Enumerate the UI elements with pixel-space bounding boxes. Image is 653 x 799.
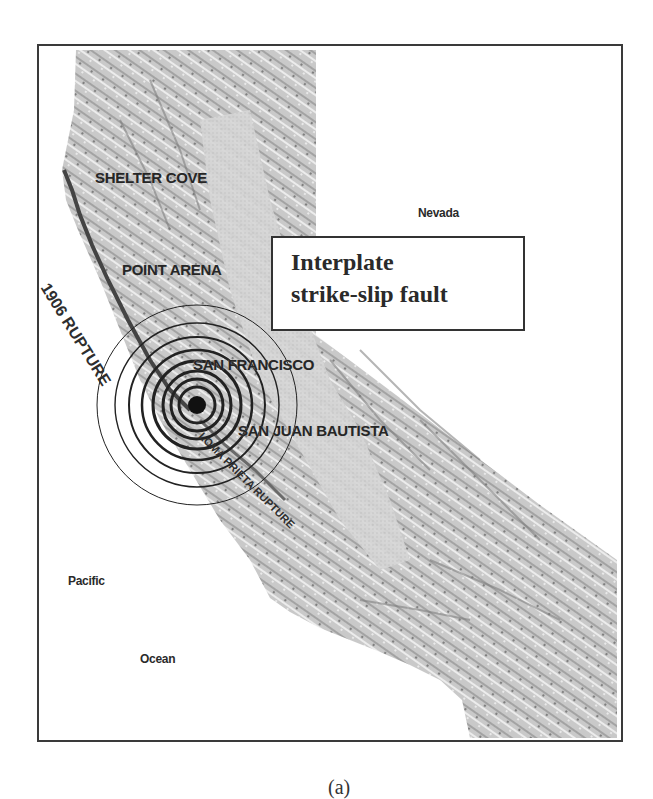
label-point-arena: POINT ARENA [122,261,221,278]
epicenter-marker [188,396,206,414]
label-pacific: Pacific [68,574,105,588]
label-san-juan-bautista: SAN JUAN BAUTISTA [238,422,388,439]
fault-type-callout: Interplate strike-slip fault [271,236,525,331]
figure-caption: (a) [328,776,350,799]
callout-line-2: strike-slip fault [291,278,523,310]
label-nevada: Nevada [418,206,459,220]
label-ocean: Ocean [140,652,175,666]
california-landmass [62,50,617,738]
label-shelter-cove: SHELTER COVE [95,169,207,186]
callout-line-1: Interplate [291,246,523,278]
label-san-francisco: SAN FRANCISCO [193,356,314,373]
